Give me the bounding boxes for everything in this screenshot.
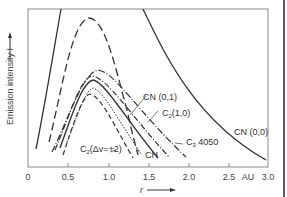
y-axis-arrow-icon	[8, 32, 12, 38]
cn00-left-branch	[36, 9, 61, 149]
series-cn01	[49, 18, 138, 155]
x-ticks	[68, 163, 229, 167]
plot-frame	[28, 9, 268, 167]
label-cn00: CN (0,0)	[234, 127, 268, 137]
label-c2-dv2: C2(Δv=+2)	[80, 144, 122, 155]
label-cn01: CN (0,1)	[143, 92, 177, 102]
tick-label: 3.0	[262, 172, 275, 182]
label-c3-4050: C3 4050	[186, 137, 218, 148]
x-axis-arrow-icon	[170, 188, 176, 192]
tick-label: 0	[25, 172, 30, 182]
leader-c210	[148, 111, 158, 122]
label-ch: CH	[145, 150, 158, 160]
tick-label: 2.0	[183, 172, 196, 182]
tick-label: 1.0	[103, 172, 116, 182]
tick-label: 1.5	[143, 172, 156, 182]
x-axis-label: r	[140, 185, 144, 195]
label-c210: C2(1,0)	[162, 108, 190, 119]
tick-label: 2.5	[223, 172, 236, 182]
tick-label: 0.5	[62, 172, 75, 182]
unit-label: AU	[242, 172, 255, 182]
leader-c3	[175, 143, 183, 144]
emission-chart: CN (0,1) C2(1,0) C3 4050 CN (0,0) CH C2(…	[0, 0, 287, 197]
